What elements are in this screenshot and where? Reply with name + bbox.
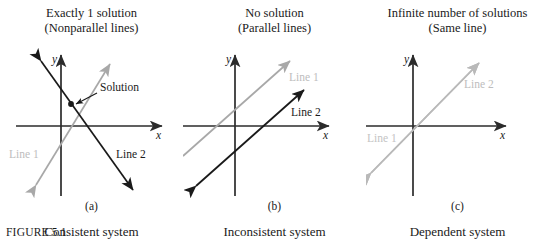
- panel-c-y-axis-label: y: [403, 53, 410, 66]
- panel-b-x-axis-label: x: [322, 129, 329, 141]
- panel-c-index: (c): [366, 200, 549, 212]
- panel-a-solution-label: Solution: [100, 81, 139, 93]
- panel-c: Infinite number of solutions (Same line): [366, 0, 549, 248]
- panel-b-line-1: [183, 61, 290, 156]
- panel-c-line-1-label: Line 1: [367, 132, 397, 144]
- panel-a-y-axis-label: y: [51, 53, 58, 66]
- panel-c-title: Infinite number of solutions (Same line): [366, 6, 549, 36]
- panel-a-index: (a): [0, 200, 183, 212]
- panel-b: No solution (Parallel lines): [183, 0, 366, 248]
- panel-b-plot: y x Line 1 Line 2: [183, 48, 366, 200]
- panel-a-solution-point: [68, 101, 74, 107]
- panel-c-line-2-label: Line 2: [464, 78, 494, 90]
- panel-b-title-line-2: (Parallel lines): [183, 21, 366, 36]
- panel-c-title-line-2: (Same line): [366, 21, 549, 36]
- panel-c-line-2: [371, 63, 479, 173]
- panel-a-x-axis-label: x: [155, 129, 162, 141]
- panel-a-title-line-1: Exactly 1 solution: [0, 6, 183, 21]
- panel-c-plot: y x Line 1 Line 2: [366, 48, 549, 200]
- panel-a-title-line-2: (Nonparallel lines): [0, 21, 183, 36]
- panel-a-line-2-label: Line 2: [116, 148, 146, 160]
- panel-c-caption: Dependent system: [366, 224, 549, 240]
- panel-b-index: (b): [183, 200, 366, 212]
- panel-b-title-line-1: No solution: [183, 6, 366, 21]
- panel-a-line-1-label: Line 1: [9, 148, 39, 160]
- panel-a: Exactly 1 solution (Nonparallel lines): [0, 0, 183, 248]
- panel-b-line-2-label: Line 2: [291, 106, 321, 118]
- panel-a-plot: Solution y x Line 1 Line 2: [0, 48, 183, 200]
- figure-label: FIGURE 5.1: [6, 226, 67, 238]
- panel-c-x-axis-label: x: [499, 129, 506, 141]
- panel-b-title: No solution (Parallel lines): [183, 6, 366, 36]
- panel-b-caption: Inconsistent system: [183, 224, 366, 240]
- panel-b-line-1-label: Line 1: [289, 71, 319, 83]
- panel-c-title-line-1: Infinite number of solutions: [366, 6, 549, 21]
- figure-5-1: Exactly 1 solution (Nonparallel lines): [0, 0, 549, 248]
- panel-a-title: Exactly 1 solution (Nonparallel lines): [0, 6, 183, 36]
- panel-a-line-1: [36, 64, 110, 185]
- panel-b-line-2: [196, 90, 304, 186]
- panel-b-y-axis-label: y: [225, 53, 232, 66]
